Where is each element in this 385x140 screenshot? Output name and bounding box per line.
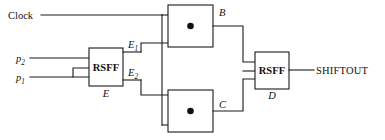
- block-rsff-d-label: RSFF: [259, 65, 286, 76]
- signal-label-shiftout: SHIFTOUT: [316, 65, 369, 76]
- delay-dot-icon-b: [187, 23, 194, 30]
- block-rsff-e-name: E: [102, 88, 110, 99]
- signal-label-c: C: [219, 99, 227, 110]
- wire-b-to-rsff-d: [213, 26, 255, 62]
- wire-rsff-e-crosscouple-stub: [73, 68, 89, 77]
- signal-label-clock: Clock: [8, 10, 34, 21]
- circuit-schematic-svg: RSFF E E1 E2 B C RSFF D Clock p2: [0, 0, 385, 140]
- signal-label-p2: p2: [15, 53, 25, 67]
- signal-label-e1: E1: [127, 39, 138, 53]
- block-rsff-d-name: D: [267, 90, 276, 101]
- delay-dot-icon-c: [187, 108, 194, 115]
- wire-e1-to-delay-b: [141, 43, 168, 52]
- wire-e2-to-delay-c: [141, 80, 168, 95]
- signal-label-p1: p1: [15, 72, 25, 86]
- block-rsff-e-label: RSFF: [93, 62, 120, 73]
- signal-label-e2: E2: [127, 67, 138, 81]
- signal-label-b: B: [219, 7, 226, 18]
- circuit-diagram-canvas: RSFF E E1 E2 B C RSFF D Clock p2: [0, 0, 385, 140]
